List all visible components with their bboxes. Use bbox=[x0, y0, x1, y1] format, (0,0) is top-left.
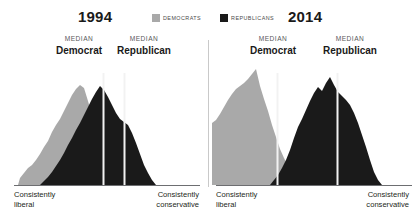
distribution-svg-1994 bbox=[0, 65, 203, 185]
area-republicans-2014 bbox=[270, 77, 382, 185]
polarization-chart-figure: 1994 DEMOCRATS REPUBLICANS 2014 MEDIAN D… bbox=[0, 0, 413, 224]
square-swatch-icon-republicans bbox=[220, 14, 228, 22]
axis-label-left-line1-2014: Consistently bbox=[216, 190, 257, 200]
median-labels-1994: MEDIAN Democrat MEDIAN Republican bbox=[0, 36, 203, 66]
chart-legend: DEMOCRATS REPUBLICANS bbox=[152, 12, 274, 23]
year-label-2014: 2014 bbox=[288, 9, 322, 25]
axis-label-right-line1-1994: Consistently bbox=[156, 190, 199, 200]
median-democrat-label-1994: MEDIAN Democrat bbox=[46, 36, 112, 56]
baseline-axis-1994 bbox=[14, 185, 200, 186]
panel-2014: MEDIAN Democrat MEDIAN Republican Consis… bbox=[210, 36, 413, 224]
median-name-democrat-2014: Democrat bbox=[240, 46, 306, 56]
axis-label-left-1994: Consistently liberal bbox=[14, 190, 55, 210]
median-kicker-democrat-2014: MEDIAN bbox=[240, 36, 306, 43]
panel-divider bbox=[208, 40, 209, 187]
median-republican-label-2014: MEDIAN Republican bbox=[314, 36, 386, 56]
chart-header: 1994 DEMOCRATS REPUBLICANS 2014 bbox=[0, 0, 413, 34]
year-label-1994: 1994 bbox=[78, 9, 112, 25]
legend-item-republicans: REPUBLICANS bbox=[220, 14, 274, 22]
panel-1994: MEDIAN Democrat MEDIAN Republican Consis… bbox=[0, 36, 203, 224]
median-name-democrat-1994: Democrat bbox=[46, 46, 112, 56]
median-democrat-label-2014: MEDIAN Democrat bbox=[240, 36, 306, 56]
median-name-republican-2014: Republican bbox=[314, 46, 386, 56]
median-labels-2014: MEDIAN Democrat MEDIAN Republican bbox=[210, 36, 413, 66]
legend-label-republicans: REPUBLICANS bbox=[231, 14, 274, 22]
distribution-svg-2014 bbox=[210, 65, 413, 185]
axis-label-right-2014: Consistently conservative bbox=[366, 190, 409, 210]
axis-label-right-line2-2014: conservative bbox=[366, 200, 409, 210]
square-swatch-icon-democrats bbox=[152, 14, 160, 22]
plot-area-2014 bbox=[210, 65, 413, 185]
axis-label-right-1994: Consistently conservative bbox=[156, 190, 199, 210]
axis-label-right-line1-2014: Consistently bbox=[366, 190, 409, 200]
axis-label-left-line2-2014: liberal bbox=[216, 200, 257, 210]
median-kicker-democrat-1994: MEDIAN bbox=[46, 36, 112, 43]
axis-label-left-line1-1994: Consistently bbox=[14, 190, 55, 200]
median-republican-label-1994: MEDIAN Republican bbox=[108, 36, 180, 56]
baseline-axis-2014 bbox=[216, 185, 412, 186]
axis-label-right-line2-1994: conservative bbox=[156, 200, 199, 210]
axis-label-left-line2-1994: liberal bbox=[14, 200, 55, 210]
plot-area-1994 bbox=[0, 65, 203, 185]
axis-label-left-2014: Consistently liberal bbox=[216, 190, 257, 210]
legend-item-democrats: DEMOCRATS bbox=[152, 14, 201, 22]
median-name-republican-1994: Republican bbox=[108, 46, 180, 56]
legend-label-democrats: DEMOCRATS bbox=[163, 14, 201, 22]
median-kicker-republican-1994: MEDIAN bbox=[108, 36, 180, 43]
median-kicker-republican-2014: MEDIAN bbox=[314, 36, 386, 43]
